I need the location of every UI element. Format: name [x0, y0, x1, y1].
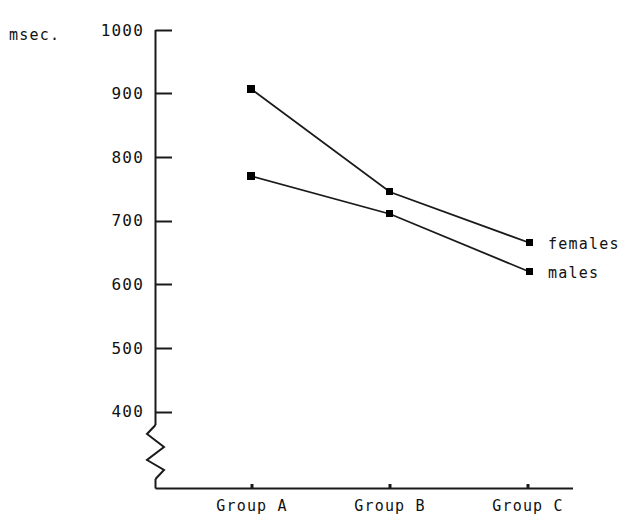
y-axis-break-zigzag	[147, 425, 164, 479]
marker-males-group-b	[386, 210, 393, 217]
marker-males-group-a	[247, 172, 255, 180]
marker-females-group-b	[386, 188, 393, 195]
marker-females-group-a	[247, 85, 255, 93]
marker-males-group-c	[526, 268, 533, 275]
series-line-females	[251, 89, 530, 243]
marker-females-group-c	[526, 239, 533, 246]
chart-page: msec. 1000 900 800 700 600 500 400 Group…	[0, 0, 638, 525]
chart-plot-area	[0, 0, 638, 525]
